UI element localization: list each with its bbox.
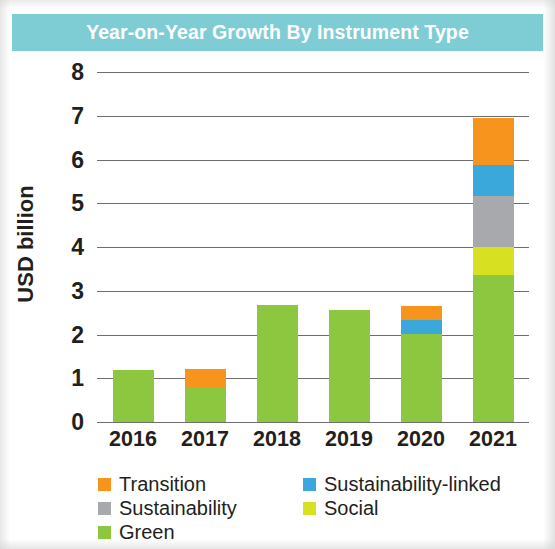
bar-segment-transition[interactable] (473, 118, 514, 165)
y-axis-tick-label: 2 (71, 323, 84, 346)
legend-row: SustainabilitySocial (98, 498, 538, 519)
bar-2016[interactable] (113, 370, 154, 423)
legend-label-green: Green (119, 522, 175, 543)
bar-segment-sustainability[interactable] (473, 196, 514, 247)
bar-segment-transition[interactable] (401, 306, 442, 320)
bar-2017[interactable] (185, 369, 226, 422)
bar-segment-sustainability-linked[interactable] (401, 320, 442, 334)
plot-area: 012345678 201620172018201920202021 (97, 72, 529, 422)
y-axis-tick-label: 5 (71, 192, 84, 215)
bar-segment-sustainability-linked[interactable] (473, 165, 514, 196)
legend-label-social: Social (324, 498, 378, 519)
chart-container: USD billion 012345678 201620172018201920… (0, 51, 555, 471)
x-axis-tick-label-2017: 2017 (181, 427, 229, 452)
x-axis-tick-label-2021: 2021 (469, 427, 517, 452)
legend-swatch-icon-green (98, 526, 111, 539)
gridline (97, 160, 529, 161)
legend-item-sustainability_linked[interactable]: Sustainability-linked (303, 474, 501, 495)
y-axis-tick-label: 6 (71, 148, 84, 171)
legend-item-social[interactable]: Social (303, 498, 378, 519)
x-axis-tick-label-2019: 2019 (325, 427, 373, 452)
gridline (97, 116, 529, 117)
chart-legend: TransitionSustainability-linkedSustainab… (98, 474, 538, 546)
gridline (97, 378, 529, 379)
bar-2020[interactable] (401, 306, 442, 422)
bar-segment-green[interactable] (401, 334, 442, 422)
bar-segment-social[interactable] (473, 247, 514, 275)
chart-title-bar: Year-on-Year Growth By Instrument Type (12, 14, 543, 51)
legend-swatch-icon-transition (98, 478, 111, 491)
legend-label-transition: Transition (119, 474, 206, 495)
legend-swatch-icon-sustainability (98, 502, 111, 515)
bar-2021[interactable] (473, 118, 514, 422)
legend-swatch-icon-sustainability_linked (303, 478, 316, 491)
y-axis-tick-label: 8 (71, 61, 84, 84)
bar-2018[interactable] (257, 305, 298, 422)
legend-item-green[interactable]: Green (98, 522, 303, 543)
bar-segment-green[interactable] (329, 310, 370, 422)
gridline (97, 291, 529, 292)
chart-title: Year-on-Year Growth By Instrument Type (86, 21, 469, 44)
bar-segment-green[interactable] (473, 275, 514, 422)
bar-segment-transition[interactable] (185, 369, 226, 388)
bar-segment-green[interactable] (113, 370, 154, 423)
bar-segment-green[interactable] (257, 305, 298, 422)
bar-segment-green[interactable] (185, 388, 226, 422)
y-axis-tick-label: 0 (71, 411, 84, 434)
y-axis-title: USD billion (13, 144, 39, 344)
legend-row: TransitionSustainability-linked (98, 474, 538, 495)
gridline (97, 335, 529, 336)
gridline (97, 72, 529, 73)
gridline (97, 203, 529, 204)
legend-label-sustainability_linked: Sustainability-linked (324, 474, 501, 495)
legend-row: Green (98, 522, 538, 543)
bar-2019[interactable] (329, 310, 370, 422)
x-axis-tick-label-2018: 2018 (253, 427, 301, 452)
x-axis-tick-label-2016: 2016 (109, 427, 157, 452)
legend-swatch-icon-social (303, 502, 316, 515)
legend-item-transition[interactable]: Transition (98, 474, 303, 495)
y-axis-tick-label: 4 (71, 236, 84, 259)
y-axis-tick-label: 1 (71, 367, 84, 390)
y-axis-tick-label: 3 (71, 279, 84, 302)
gridline (97, 422, 529, 423)
y-axis-tick-label: 7 (71, 104, 84, 127)
legend-item-sustainability[interactable]: Sustainability (98, 498, 303, 519)
legend-label-sustainability: Sustainability (119, 498, 237, 519)
x-axis-tick-label-2020: 2020 (397, 427, 445, 452)
gridline (97, 247, 529, 248)
